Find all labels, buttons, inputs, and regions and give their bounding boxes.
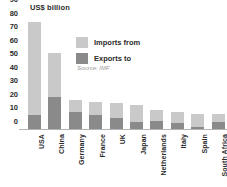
y-axis-tick-70: 70	[2, 22, 18, 31]
trade-partners-bar-chart: US$ billion 0102030405060708090 USAChina…	[0, 0, 227, 187]
y-axis-tick-80: 80	[2, 8, 18, 17]
y-axis-tick-0: 0	[2, 117, 18, 126]
y-axis-tick-60: 60	[2, 35, 18, 44]
legend-item-imports: Imports from	[76, 37, 140, 48]
bars-container	[22, 8, 227, 130]
bar-netherlands	[150, 110, 163, 130]
bar-segment-imports	[69, 100, 82, 112]
bar-segment-exports	[89, 115, 102, 130]
bar-segment-imports	[171, 112, 184, 123]
bar-china	[48, 53, 61, 130]
bar-italy	[171, 112, 184, 130]
bar-segment-imports	[130, 105, 143, 122]
y-axis-tick-50: 50	[2, 49, 18, 58]
y-axis-tick-30: 30	[2, 76, 18, 85]
y-axis-tick-90: 90	[2, 0, 18, 4]
legend-item-exports: Exports to	[76, 53, 140, 64]
plot-area: 0102030405060708090	[22, 8, 227, 130]
y-axis-tick-10: 10	[2, 103, 18, 112]
category-label-south-africa: South Africa	[221, 134, 227, 177]
bar-segment-imports	[110, 103, 123, 118]
category-label-usa: USA	[38, 134, 45, 149]
category-label-italy: Italy	[180, 134, 187, 149]
category-label-france: France	[99, 134, 106, 158]
bar-segment-imports	[89, 102, 102, 115]
bar-segment-imports	[48, 53, 61, 98]
bar-segment-imports	[28, 22, 41, 116]
y-axis-tick-40: 40	[2, 62, 18, 71]
axis-baseline	[19, 129, 227, 130]
category-label-germany: Germany	[78, 134, 85, 165]
category-label-china: China	[58, 134, 65, 154]
bar-segment-exports	[48, 97, 61, 130]
legend-swatch-imports-icon	[76, 37, 88, 48]
legend-label-imports: Imports from	[94, 38, 140, 47]
bar-usa	[28, 22, 41, 130]
bar-japan	[130, 105, 143, 130]
bar-segment-imports	[191, 114, 204, 128]
bar-segment-exports	[69, 112, 82, 130]
category-label-uk: UK	[119, 134, 126, 144]
bar-segment-imports	[150, 110, 163, 121]
category-label-japan: Japan	[140, 134, 147, 155]
bar-uk	[110, 103, 123, 130]
bar-south-africa	[212, 114, 225, 130]
legend-swatch-exports-icon	[76, 53, 88, 64]
bar-segment-exports	[28, 115, 41, 130]
category-label-netherlands: Netherlands	[160, 134, 167, 176]
bar-france	[89, 102, 102, 130]
source-note: Source: IMF	[77, 65, 110, 71]
bar-segment-imports	[212, 114, 225, 121]
y-axis-tick-20: 20	[2, 89, 18, 98]
bar-spain	[191, 114, 204, 130]
category-label-spain: Spain	[201, 134, 208, 154]
bar-germany	[69, 100, 82, 130]
legend-label-exports: Exports to	[94, 54, 131, 63]
